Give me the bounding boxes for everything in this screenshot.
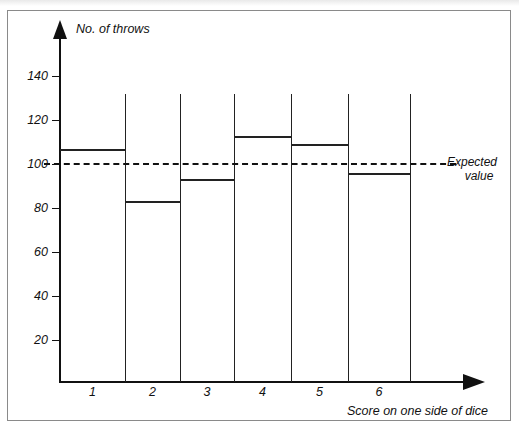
expected-value-label-line1: Expected (447, 155, 497, 169)
y-tick-label-80-wrap: 80 (16, 201, 48, 215)
x-tick-label-6: 6 (367, 385, 391, 399)
bar-separator-6 (410, 94, 411, 382)
y-tick-80 (52, 208, 61, 209)
x-tick-label-4: 4 (251, 385, 275, 399)
bar-top-2 (125, 201, 180, 203)
x-tick-label-5: 5 (308, 385, 332, 399)
y-tick-label-40-wrap: 40 (16, 289, 48, 303)
y-tick-label-40: 40 (20, 289, 48, 303)
bar-separator-1 (125, 94, 126, 382)
bar-chart-plot: No. of throws Score on one side of dice … (0, 0, 519, 431)
y-tick-label-20: 20 (20, 333, 48, 347)
y-tick-60 (52, 252, 61, 253)
y-tick-label-60: 60 (20, 245, 48, 259)
y-tick-140 (52, 76, 61, 77)
x-tick-label-2: 2 (141, 385, 165, 399)
bar-separator-5 (348, 94, 349, 382)
x-axis-arrow-icon (463, 374, 485, 390)
bar-separator-2 (180, 94, 181, 382)
y-tick-label-140: 140 (20, 69, 48, 83)
y-axis-title: No. of throws (76, 22, 150, 36)
x-tick-label-1: 1 (81, 385, 105, 399)
bar-top-4 (234, 136, 291, 138)
y-tick-20 (52, 340, 61, 341)
y-tick-label-120-wrap: 120 (16, 113, 48, 127)
bar-top-5 (291, 144, 348, 146)
y-tick-label-120: 120 (20, 113, 48, 127)
y-axis-line (59, 36, 61, 382)
y-tick-40 (52, 296, 61, 297)
bar-top-1 (60, 149, 125, 151)
expected-value-label-line2: value (447, 169, 511, 183)
bar-top-6 (348, 173, 410, 175)
y-tick-label-140-wrap: 140 (16, 69, 48, 83)
y-tick-label-60-wrap: 60 (16, 245, 48, 259)
y-tick-label-20-wrap: 20 (16, 333, 48, 347)
y-tick-label-80: 80 (20, 201, 48, 215)
x-axis-line (59, 381, 465, 383)
expected-value-label: Expected value (447, 155, 511, 183)
x-tick-label-3: 3 (195, 385, 219, 399)
x-axis-title: Score on one side of dice (347, 404, 488, 418)
expected-value-line (44, 163, 456, 165)
bar-separator-3 (234, 94, 235, 382)
y-axis-arrow-icon (53, 20, 67, 39)
y-tick-120 (52, 120, 61, 121)
bar-top-3 (180, 179, 234, 181)
chart-page: No. of throws Score on one side of dice … (0, 0, 519, 431)
bar-separator-4 (291, 94, 292, 382)
